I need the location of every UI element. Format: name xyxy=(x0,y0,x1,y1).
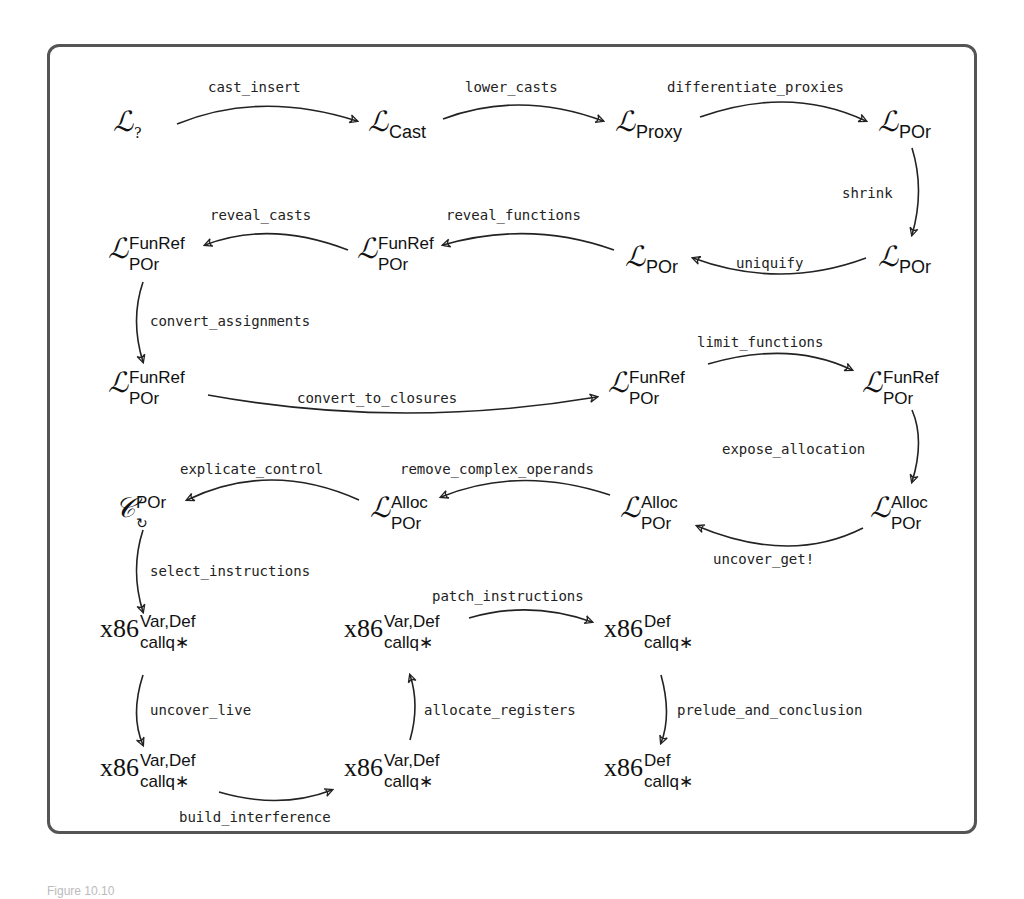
label-explicate-control: explicate_control xyxy=(180,461,323,477)
node-lang-funref-1: ℒFunRefPOr xyxy=(357,235,434,271)
node-x86-var-def-3: x86Var,Defcallq∗ xyxy=(100,754,195,788)
node-lang-por-2: ℒPOr xyxy=(878,243,931,271)
arrow-differentiate-proxies xyxy=(700,102,866,121)
label-reveal-functions: reveal_functions xyxy=(446,207,581,223)
node-x86-var-def-1: x86Var,Defcallq∗ xyxy=(100,615,195,649)
arrow-select-instructions xyxy=(137,530,144,612)
label-lower-casts: lower_casts xyxy=(465,79,558,95)
label-differentiate-proxies: differentiate_proxies xyxy=(667,79,844,95)
label-uncover-get: uncover_get! xyxy=(713,551,814,567)
label-select-instructions: select_instructions xyxy=(150,563,310,579)
arrow-cast-insert xyxy=(177,106,357,124)
node-x86-def-2: x86Defcallq∗ xyxy=(604,754,693,788)
node-x86-var-def-4: x86Var,Defcallq∗ xyxy=(344,754,439,788)
label-reveal-casts: reveal_casts xyxy=(210,207,311,223)
figure-caption: Figure 10.10 xyxy=(47,884,114,898)
arrow-explicate-control xyxy=(187,480,359,500)
arrow-reveal-functions xyxy=(443,234,614,250)
node-lang-funref-4: ℒFunRefPOr xyxy=(608,369,685,405)
node-lang-c-loop: 𝒞POr↻ xyxy=(115,494,166,530)
label-expose-allocation: expose_allocation xyxy=(722,441,865,457)
label-uniquify: uniquify xyxy=(736,255,803,271)
node-lang-alloc-1: ℒAllocPOr xyxy=(870,494,928,530)
label-patch-instructions: patch_instructions xyxy=(432,588,584,604)
arrow-uncover-live xyxy=(137,675,144,745)
node-x86-def-1: x86Defcallq∗ xyxy=(604,615,693,649)
node-lang-funref-5: ℒFunRefPOr xyxy=(862,369,939,405)
node-lang-por-1: ℒPOr xyxy=(878,108,931,136)
node-x86-var-def-2: x86Var,Defcallq∗ xyxy=(344,615,439,649)
arrow-build-interference xyxy=(219,790,332,801)
label-build-interference: build_interference xyxy=(179,809,331,825)
arrow-remove-complex-operands xyxy=(441,480,610,497)
arrow-shrink xyxy=(912,148,919,235)
arrow-patch-instructions xyxy=(469,610,592,622)
node-lang-alloc-2: ℒAllocPOr xyxy=(620,494,678,530)
arrow-convert-assignments xyxy=(137,282,144,362)
arrow-expose-allocation xyxy=(912,410,919,482)
label-uncover-live: uncover_live xyxy=(150,702,251,718)
label-shrink: shrink xyxy=(842,185,893,201)
arrow-reveal-casts xyxy=(205,234,348,250)
node-lang-funref-2: ℒFunRefPOr xyxy=(108,235,185,271)
label-allocate-registers: allocate_registers xyxy=(424,702,576,718)
node-lang-cast: ℒCast xyxy=(368,108,426,136)
node-lang-alloc-3: ℒAllocPOr xyxy=(370,494,428,530)
arrow-lower-casts xyxy=(443,105,603,121)
label-limit-functions: limit_functions xyxy=(697,334,823,350)
arrow-allocate-registers xyxy=(410,675,415,740)
node-lang-gradual: ℒ? xyxy=(113,108,142,136)
node-lang-por-3: ℒPOr xyxy=(625,243,678,271)
arrow-uncover-get xyxy=(697,526,863,546)
label-convert-assignments: convert_assignments xyxy=(150,313,310,329)
arrow-limit-functions xyxy=(708,353,852,370)
label-convert-to-closures: convert_to_closures xyxy=(297,390,457,406)
label-prelude-and-conclusion: prelude_and_conclusion xyxy=(677,702,862,718)
label-remove-complex-operands: remove_complex_operands xyxy=(400,461,594,477)
label-cast-insert: cast_insert xyxy=(208,79,301,95)
node-lang-proxy: ℒProxy xyxy=(615,108,682,136)
node-lang-funref-3: ℒFunRefPOr xyxy=(108,369,185,405)
arrow-prelude-and-conclusion xyxy=(661,675,667,743)
